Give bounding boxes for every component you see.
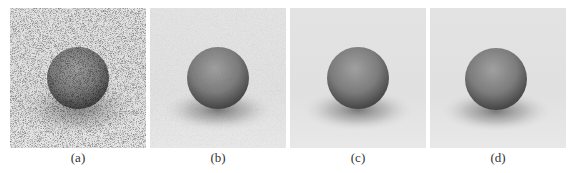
- figure: (a) (b) (c) (d): [0, 0, 575, 173]
- panel-d-reference-render: [430, 8, 566, 148]
- caption-b: (b): [150, 150, 286, 166]
- caption-a: (a): [10, 150, 146, 166]
- sphere-render-image: [290, 8, 426, 148]
- panel-c-render: [290, 8, 426, 148]
- panel-b-render: [150, 8, 286, 148]
- caption-d: (d): [430, 150, 566, 166]
- caption-c: (c): [290, 150, 426, 166]
- sphere-render-image: [10, 8, 146, 148]
- sphere-render-image: [150, 8, 286, 148]
- sphere-render-image: [430, 8, 566, 148]
- panel-a-noisy-render: [10, 8, 146, 148]
